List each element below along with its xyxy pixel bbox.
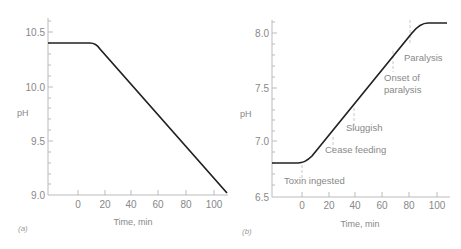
x-tick-a-60: 60	[152, 199, 164, 210]
panel-label-b: (b)	[242, 227, 252, 236]
x-tick-b-60: 60	[376, 200, 388, 211]
y-axis-label-a: pH	[17, 108, 29, 118]
x-axis-label-a: Time, min	[113, 217, 152, 227]
y-tick-b-8.0: 8.0	[255, 28, 269, 39]
chart-b: 8.0 7.5 7.0 6.5 pH 0 20 40 60 80 100 Tim…	[240, 20, 450, 236]
x-tick-b-20: 20	[323, 200, 335, 211]
x-tick-a-40: 40	[125, 199, 137, 210]
annotation-paralysis: Paralysis	[404, 52, 443, 63]
y-tick-b-7.5: 7.5	[255, 83, 269, 94]
annotation-onset-of-paralysis-1: Onset of	[384, 72, 420, 83]
y-tick-a-10.5: 10.5	[26, 27, 46, 38]
annotation-sluggish: Sluggish	[346, 122, 382, 133]
y-tick-a-9.0: 9.0	[31, 190, 45, 201]
y-axis-label-b: pH	[240, 109, 252, 119]
x-tick-a-100: 100	[206, 199, 223, 210]
annotation-toxin-ingested: Toxin ingested	[284, 175, 345, 186]
y-tick-a-10.0: 10.0	[26, 82, 46, 93]
x-tick-a-20: 20	[99, 199, 111, 210]
annotation-onset-of-paralysis-2: paralysis	[384, 84, 422, 95]
x-tick-a-0: 0	[75, 199, 81, 210]
annotation-cease-feeding: Cease feeding	[325, 144, 386, 155]
x-tick-b-0: 0	[299, 200, 305, 211]
data-line-a	[48, 43, 227, 193]
x-tick-b-80: 80	[403, 200, 415, 211]
event-markers	[302, 20, 410, 180]
x-tick-b-40: 40	[349, 200, 361, 211]
panel-label-a: (a)	[18, 224, 28, 233]
y-tick-b-6.5: 6.5	[255, 192, 269, 203]
y-tick-b-7.0: 7.0	[255, 136, 269, 147]
x-tick-a-80: 80	[180, 199, 192, 210]
x-tick-b-100: 100	[429, 200, 446, 211]
x-axis-label-b: Time, min	[340, 219, 379, 229]
y-tick-a-9.5: 9.5	[31, 136, 45, 147]
figure: 10.5 10.0 9.5 9.0 pH 0 20 40 60 80 100 T…	[0, 0, 461, 249]
chart-a: 10.5 10.0 9.5 9.0 pH 0 20 40 60 80 100 T…	[17, 18, 228, 233]
